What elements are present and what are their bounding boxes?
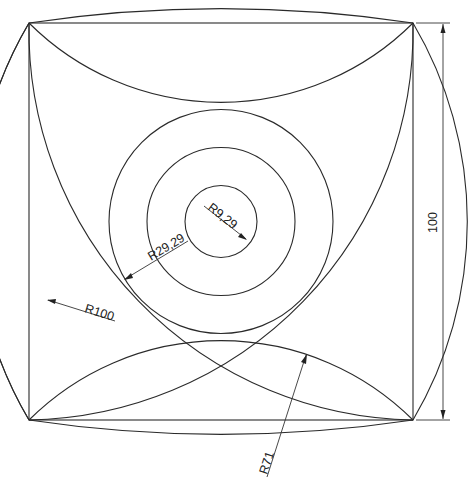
arc-right-bulge bbox=[413, 23, 467, 420]
dim-label-r-inner: R9,29 bbox=[205, 200, 240, 232]
dim-r-middle: R29,29 bbox=[124, 231, 188, 280]
dim-r-inner: R9,29 bbox=[204, 200, 247, 240]
arrow-icon bbox=[301, 354, 307, 364]
arc-r71-top-lower bbox=[29, 23, 413, 102]
arc-r71-bottom-upper bbox=[29, 341, 413, 420]
arrow-up-icon bbox=[441, 24, 446, 33]
arc-r71-top-upper bbox=[29, 9, 413, 23]
cad-drawing: R9,29 R29,29 R100 R71 100 bbox=[0, 0, 476, 501]
dim-height: 100 bbox=[416, 23, 450, 420]
arc-left-bulge bbox=[0, 23, 29, 420]
arrow-down-icon bbox=[441, 410, 446, 419]
arc-r71-bottom-lower bbox=[29, 420, 413, 434]
dim-label-height: 100 bbox=[426, 212, 440, 233]
dim-label-r-arc: R71 bbox=[257, 450, 277, 476]
dim-label-r-large: R100 bbox=[83, 301, 116, 323]
dim-label-r-middle: R29,29 bbox=[145, 231, 187, 264]
dim-r-arc: R71 bbox=[257, 354, 307, 477]
arrow-icon bbox=[124, 273, 133, 280]
arc-r100-left-side bbox=[0, 23, 29, 420]
dim-r-large: R100 bbox=[47, 299, 116, 324]
